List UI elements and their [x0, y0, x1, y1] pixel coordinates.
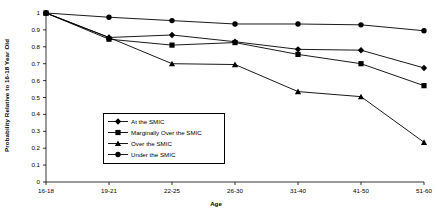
y-tick-label: 0.6 — [18, 77, 40, 84]
y-tick-label: 0.4 — [18, 110, 40, 117]
x-tick-label: 19-21 — [86, 187, 132, 194]
y-tick-label: 0.1 — [18, 161, 40, 168]
data-point — [232, 21, 237, 26]
data-point — [358, 61, 363, 66]
legend-marker — [115, 118, 121, 124]
y-tick-label: 0.7 — [18, 60, 40, 67]
legend-marker-triangle-icon — [107, 138, 129, 149]
data-point — [358, 47, 364, 53]
legend-item[interactable]: Over the SMIC — [104, 138, 224, 149]
x-tick-label: 51-60 — [401, 187, 437, 194]
y-tick-label: 0 — [18, 178, 40, 185]
data-point — [295, 52, 300, 57]
x-tick-label: 26-30 — [212, 187, 258, 194]
x-axis-title: Age — [0, 200, 432, 207]
data-point — [421, 65, 427, 71]
x-axis-ticks — [46, 182, 424, 185]
data-point — [295, 46, 301, 52]
legend-label: Over the SMIC — [129, 140, 172, 147]
legend-marker-diamond-icon — [107, 116, 129, 127]
series-2 — [43, 10, 427, 145]
legend-marker-square-icon — [107, 127, 129, 138]
series-3 — [43, 10, 426, 33]
data-point — [295, 21, 300, 26]
legend-label: Marginally Over the SMIC — [129, 129, 202, 136]
y-tick-label: 0.3 — [18, 127, 40, 134]
data-point — [421, 83, 426, 88]
legend-item[interactable]: Marginally Over the SMIC — [104, 127, 224, 138]
y-axis-title-text: Probability Relative to 16-18 Year Old — [4, 38, 11, 151]
legend-marker-circle-icon — [107, 149, 129, 160]
legend-item[interactable]: At the SMIC — [104, 116, 224, 127]
legend-label: At the SMIC — [129, 118, 164, 125]
legend-item[interactable]: Under the SMIC — [104, 149, 224, 160]
data-point — [232, 40, 237, 45]
legend-marker — [115, 130, 120, 135]
y-axis-ticks — [43, 13, 46, 182]
x-tick-label: 31-40 — [275, 187, 321, 194]
x-tick-label: 22-25 — [149, 187, 195, 194]
y-tick-label: 0.8 — [18, 43, 40, 50]
y-axis-title: Probability Relative to 16-18 Year Old — [0, 0, 14, 190]
data-point — [358, 22, 363, 27]
data-point — [169, 18, 174, 23]
y-tick-label: 0.9 — [18, 26, 40, 33]
y-tick-label: 1 — [18, 9, 40, 16]
data-point — [421, 139, 427, 145]
data-point — [169, 32, 175, 38]
data-point — [421, 28, 426, 33]
y-tick-label: 0.2 — [18, 144, 40, 151]
data-point — [43, 10, 48, 15]
data-point — [106, 15, 111, 20]
legend-marker — [115, 152, 120, 157]
x-tick-label: 41-50 — [338, 187, 384, 194]
y-tick-label: 0.5 — [18, 94, 40, 101]
x-tick-label: 16-18 — [23, 187, 69, 194]
legend-label: Under the SMIC — [129, 151, 175, 158]
data-point — [169, 43, 174, 48]
chart-legend: At the SMICMarginally Over the SMICOver … — [103, 113, 225, 164]
